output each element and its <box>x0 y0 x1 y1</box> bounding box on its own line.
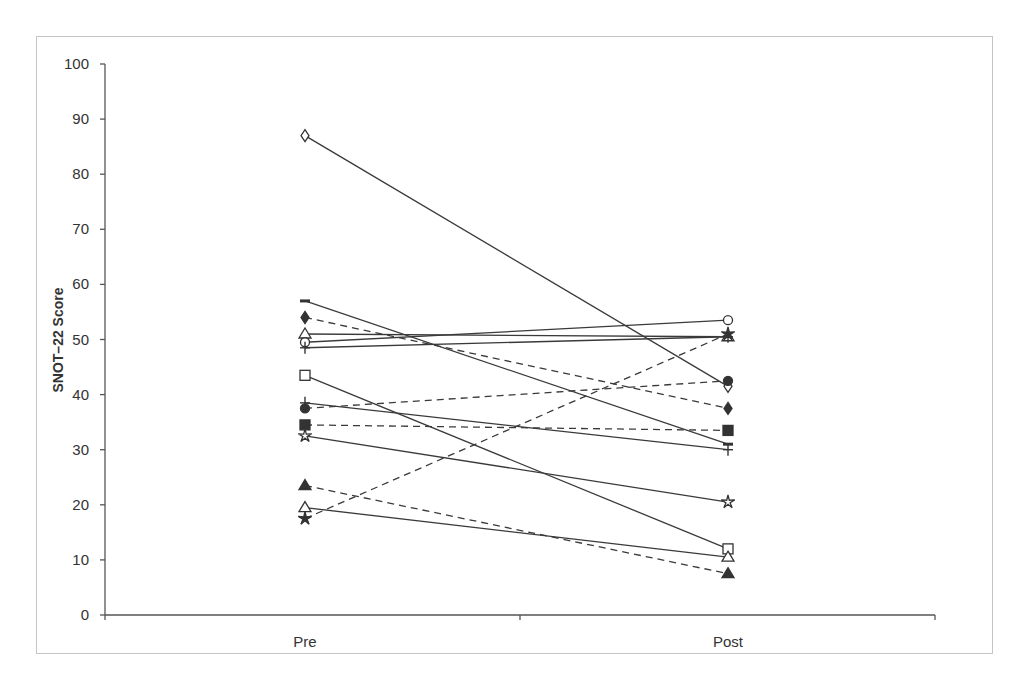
y-tick-label: 20 <box>72 496 89 513</box>
triangle-marker-icon <box>299 502 311 512</box>
circle-marker-icon <box>724 316 733 325</box>
y-tick-label: 50 <box>72 331 89 348</box>
y-tick-label: 90 <box>72 110 89 127</box>
data-point-group <box>298 429 734 508</box>
triangle-marker-icon <box>299 328 311 338</box>
diamond-marker-icon <box>301 311 309 323</box>
series-line <box>305 436 728 502</box>
data-point-group <box>299 502 734 562</box>
series-line <box>305 486 728 574</box>
series-markers <box>298 130 734 578</box>
x-tick-label: Post <box>713 633 744 650</box>
square-marker-icon <box>300 420 310 430</box>
triangle-marker-icon <box>722 568 734 578</box>
y-tick-label: 40 <box>72 386 89 403</box>
series-line <box>305 508 728 558</box>
star-marker-icon <box>298 512 311 525</box>
series-line <box>305 375 728 549</box>
y-tick-label: 30 <box>72 441 89 458</box>
y-tick-label: 10 <box>72 551 89 568</box>
series-line <box>305 381 728 409</box>
data-point-group <box>299 480 734 578</box>
x-tick-label: Pre <box>293 633 316 650</box>
circle-marker-icon <box>724 376 733 385</box>
star-marker-icon <box>721 495 734 508</box>
square-marker-icon <box>723 425 733 435</box>
data-point-group <box>301 376 733 413</box>
y-tick-label: 60 <box>72 275 89 292</box>
triangle-marker-icon <box>299 480 311 490</box>
series-line <box>305 334 728 337</box>
diamond-marker-icon <box>724 402 732 414</box>
axes: 0102030405060708090100PrePost <box>64 55 935 650</box>
y-tick-label: 100 <box>64 55 89 72</box>
series-line <box>305 301 728 444</box>
line-chart: 0102030405060708090100PrePost SNOT–22 Sc… <box>0 0 1027 689</box>
diamond-marker-icon <box>301 130 309 142</box>
y-axis-title: SNOT–22 Score <box>50 287 66 392</box>
data-point-group <box>300 420 733 436</box>
star-marker-icon <box>298 429 311 442</box>
series-lines <box>305 136 728 574</box>
y-tick-label: 0 <box>81 606 89 623</box>
square-marker-icon <box>300 370 310 380</box>
circle-marker-icon <box>301 404 310 413</box>
series-line <box>305 136 728 387</box>
y-tick-label: 70 <box>72 220 89 237</box>
y-tick-label: 80 <box>72 165 89 182</box>
